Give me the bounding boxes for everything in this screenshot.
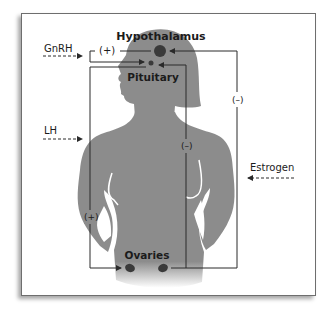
ovaries-label: Ovaries [124,249,169,261]
hypothalamus-label: Hypothalamus [116,30,206,43]
feedback-hypothalamus-pituitary-label: (+) [99,45,115,56]
torso-silhouette [78,112,235,288]
feedback-ovaries-pituitary-label: (–) [181,141,193,151]
pituitary-organ [149,61,154,66]
hypothalamus-organ [154,45,166,57]
lh-label: LH [44,125,57,136]
estrogen-label: Estrogen [250,162,294,173]
pituitary-label: Pituitary [127,71,179,83]
hpo-axis-diagram: (+) (+) (–) (–) Hypothalamus Pituitary O… [0,0,331,316]
feedback-ovaries-hypothalamus-label: (–) [232,95,244,105]
gnrh-label: GnRH [44,43,73,54]
feedback-pituitary-ovaries-label: (+) [84,212,99,222]
